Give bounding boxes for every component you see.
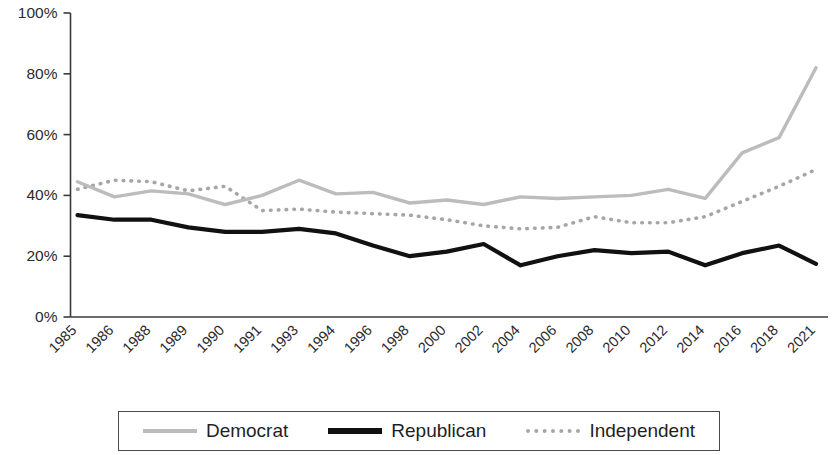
- y-axis-tick-label: 60%: [26, 126, 57, 143]
- x-axis-labels: 1985198619881989199019911993199419961998…: [45, 322, 818, 356]
- line-swatch-solid-gray-icon: [143, 424, 197, 438]
- x-axis-tick-label: 1988: [119, 322, 153, 356]
- y-axis-tick-label: 40%: [26, 186, 57, 203]
- x-axis-tick-label: 1994: [304, 322, 338, 356]
- chart-legend: Democrat Republican Independent: [118, 411, 720, 451]
- x-axis-tick-label: 1991: [230, 322, 264, 356]
- x-axis-tick-label: 2008: [562, 322, 596, 356]
- x-axis-tick-label: 2018: [747, 322, 781, 356]
- x-axis-tick-label: 1993: [267, 322, 301, 356]
- y-axis-tick-label: 80%: [26, 65, 57, 82]
- legend-item-democrat: Democrat: [143, 420, 288, 442]
- legend-item-independent: Independent: [526, 420, 695, 442]
- x-axis-tick-label: 2016: [710, 322, 744, 356]
- chart-plot-area: 100%80%60%40%20%0% 198519861988198919901…: [0, 0, 833, 400]
- y-axis-tick-label: 0%: [35, 308, 58, 325]
- x-axis-tick-label: 1990: [193, 322, 227, 356]
- series-line-republican: [78, 215, 817, 265]
- x-axis-tick-label: 2004: [489, 322, 523, 356]
- y-axis-tick-label: 100%: [18, 4, 58, 21]
- x-axis-tick-label: 1996: [341, 322, 375, 356]
- x-axis-tick-label: 2000: [415, 322, 449, 356]
- legend-label-republican: Republican: [391, 420, 486, 442]
- x-axis-tick-label: 2012: [636, 322, 670, 356]
- x-axis-tick-label: 1998: [378, 322, 412, 356]
- line-swatch-dotted-gray-icon: [526, 424, 580, 438]
- x-axis-tick-label: 2006: [526, 322, 560, 356]
- legend-label-democrat: Democrat: [206, 420, 288, 442]
- legend-label-independent: Independent: [589, 420, 695, 442]
- series-line-democrat: [78, 68, 817, 205]
- y-axis-labels: 100%80%60%40%20%0%: [18, 4, 58, 325]
- x-axis-tick-label: 1989: [156, 322, 190, 356]
- chart-container: 100%80%60%40%20%0% 198519861988198919901…: [0, 0, 833, 455]
- line-swatch-solid-black-icon: [328, 424, 382, 438]
- y-axis-ticks: [64, 13, 71, 317]
- x-axis-tick-label: 1986: [82, 322, 116, 356]
- x-axis-tick-label: 2002: [452, 322, 486, 356]
- y-axis-tick-label: 20%: [26, 247, 57, 264]
- legend-item-republican: Republican: [328, 420, 486, 442]
- x-axis-tick-label: 2010: [599, 322, 633, 356]
- x-axis-tick-label: 1985: [45, 322, 79, 356]
- x-axis-tick-label: 2014: [673, 322, 707, 356]
- x-axis-tick-label: 2021: [784, 322, 818, 356]
